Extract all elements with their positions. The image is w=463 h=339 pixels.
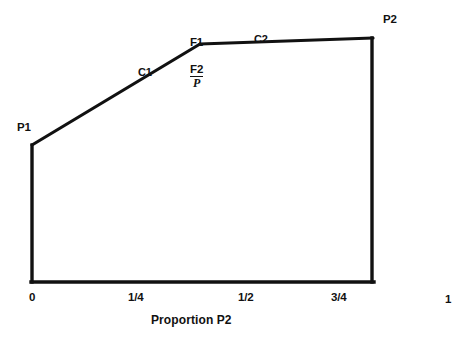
xtick-label-1: 1 [445,293,451,305]
xtick-label-1-4: 1/4 [128,291,143,303]
point-label-p1: P1 [17,121,31,133]
point-label-c2: C2 [254,33,268,45]
diagram-canvas [0,0,463,339]
xtick-label-1-2: 1/2 [238,291,253,303]
frontier-segment-steep [32,44,200,145]
figure-container: P1 P2 F1 C1 C2 F2 P 0 1/4 1/2 3/4 1 Prop… [0,0,463,339]
interior-label-f2-over-pbar: F2 P [190,63,203,90]
interior-label-denominator: P [190,76,203,90]
point-label-f1: F1 [190,36,203,48]
frontier-segment-shallow [200,38,373,44]
point-label-p2: P2 [383,13,397,25]
xtick-label-3-4: 3/4 [331,291,346,303]
interior-label-numerator: F2 [190,63,203,76]
point-label-c1: C1 [138,66,152,78]
x-axis-title: Proportion P2 [151,314,232,326]
xtick-label-0: 0 [29,291,35,303]
